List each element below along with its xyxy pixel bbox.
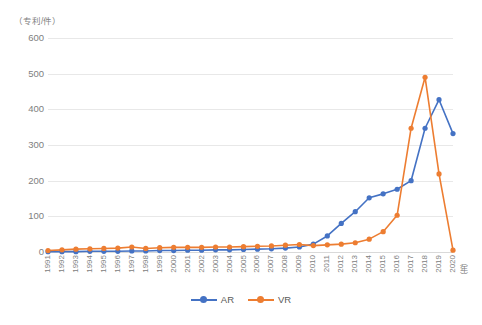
x-axis-tick-labels: 1991199219931994199519961997199819992000…	[48, 255, 453, 299]
data-point-vr	[143, 246, 148, 251]
data-point-ar	[367, 195, 372, 200]
x-axis-tick-label: 2019	[435, 255, 443, 273]
data-point-vr	[157, 245, 162, 250]
data-point-ar	[381, 191, 386, 196]
x-axis-tick-label: 2005	[240, 255, 248, 273]
x-axis-tick-label: 2009	[295, 255, 303, 273]
data-point-vr	[283, 243, 288, 248]
chart-legend: ARVR	[0, 294, 482, 305]
data-point-vr	[129, 244, 134, 249]
x-axis-tick-label: 1992	[58, 255, 66, 273]
data-point-ar	[339, 221, 344, 226]
data-point-vr	[395, 213, 400, 218]
x-axis-tick-label: 2006	[253, 255, 261, 273]
series-line-vr	[48, 77, 453, 250]
x-axis-tick-label: 2014	[365, 255, 373, 273]
x-axis-tick-label: 2011	[323, 255, 331, 272]
legend-marker-icon	[248, 295, 274, 304]
data-point-ar	[436, 97, 441, 102]
legend-item-ar[interactable]: AR	[191, 294, 234, 305]
data-point-vr	[185, 245, 190, 250]
x-axis-tick-label: 2018	[421, 255, 429, 273]
y-axis-tick-label: 600	[4, 33, 44, 43]
data-point-ar	[450, 131, 455, 136]
data-point-vr	[269, 243, 274, 248]
x-axis-unit-label: （年）	[457, 258, 468, 279]
gridline	[48, 252, 453, 253]
x-axis-tick-label: 1996	[114, 255, 122, 273]
x-axis-tick-label: 2004	[226, 255, 234, 273]
data-point-vr	[325, 242, 330, 247]
x-axis-tick-label: 1991	[44, 255, 52, 273]
data-point-ar	[409, 178, 414, 183]
y-axis-tick-label: 500	[4, 69, 44, 79]
data-point-vr	[241, 244, 246, 249]
data-point-vr	[367, 237, 372, 242]
legend-label: AR	[221, 294, 234, 305]
x-axis-tick-label: 2016	[393, 255, 401, 273]
data-point-ar	[353, 209, 358, 214]
y-axis-tick-label: 400	[4, 105, 44, 115]
x-axis-tick-label: 2013	[351, 255, 359, 273]
y-axis-tick-label: 100	[4, 212, 44, 222]
data-point-vr	[450, 248, 455, 253]
x-axis-tick-label: 2008	[281, 255, 289, 273]
data-point-vr	[436, 171, 441, 176]
data-point-vr	[213, 244, 218, 249]
legend-label: VR	[278, 294, 291, 305]
x-axis-tick-label: 2017	[407, 255, 415, 273]
x-axis-tick-label: 2001	[184, 255, 192, 273]
x-axis-tick-label: 2010	[309, 255, 317, 273]
x-axis-tick-label: 2020	[449, 255, 457, 273]
x-axis-tick-label: 1999	[156, 255, 164, 273]
series-line-ar	[48, 100, 453, 252]
data-point-vr	[101, 246, 106, 251]
data-point-vr	[339, 242, 344, 247]
x-axis-tick-label: 1995	[100, 255, 108, 273]
data-point-ar	[422, 126, 427, 131]
x-axis-tick-label: 2015	[379, 255, 387, 273]
legend-marker-icon	[191, 295, 217, 304]
y-axis-tick-label: 300	[4, 140, 44, 150]
y-axis-tick-labels: 6005004003002001000	[0, 38, 44, 252]
data-point-vr	[422, 75, 427, 80]
x-axis-tick-label: 1997	[128, 255, 136, 273]
x-axis-tick-label: 2012	[337, 255, 345, 273]
line-chart: （专利/件） （年） 6005004003002001000 199119921…	[0, 0, 482, 325]
data-point-vr	[353, 240, 358, 245]
data-point-vr	[255, 244, 260, 249]
data-point-vr	[199, 245, 204, 250]
series-layer	[48, 38, 453, 252]
x-axis-tick-label: 1998	[142, 255, 150, 273]
data-point-vr	[381, 229, 386, 234]
x-axis-tick-label: 1993	[72, 255, 80, 273]
data-point-vr	[311, 243, 316, 248]
y-axis-tick-label: 200	[4, 176, 44, 186]
plot-area	[48, 38, 453, 252]
data-point-vr	[45, 248, 50, 253]
data-point-vr	[171, 245, 176, 250]
data-point-vr	[409, 126, 414, 131]
data-point-vr	[73, 247, 78, 252]
x-axis-tick-label: 2003	[212, 255, 220, 273]
x-axis-tick-label: 2000	[170, 255, 178, 273]
data-point-ar	[395, 187, 400, 192]
y-axis-unit-label: （专利/件）	[14, 14, 61, 26]
data-point-ar	[325, 233, 330, 238]
x-axis-tick-label: 2002	[198, 255, 206, 273]
data-point-vr	[115, 245, 120, 250]
data-point-vr	[87, 246, 92, 251]
data-point-vr	[227, 244, 232, 249]
y-axis-tick-label: 0	[4, 247, 44, 257]
x-axis-tick-label: 1994	[86, 255, 94, 273]
legend-item-vr[interactable]: VR	[248, 294, 291, 305]
x-axis-tick-label: 2007	[267, 255, 275, 273]
data-point-vr	[59, 247, 64, 252]
data-point-vr	[297, 242, 302, 247]
